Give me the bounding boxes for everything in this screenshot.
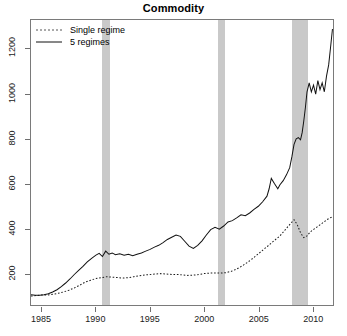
legend-key-solid-line bbox=[36, 37, 62, 47]
legend-item-single-regime: Single regime bbox=[36, 24, 125, 36]
x-tick-label: 2000 bbox=[184, 314, 224, 324]
x-tick-mark bbox=[150, 307, 151, 312]
y-tick-label: 800 bbox=[7, 128, 17, 148]
series-line-single-regime bbox=[31, 217, 332, 296]
chart-screenshot: Commodity 20040060080010001200 198519901… bbox=[0, 0, 347, 336]
x-tick-label: 1985 bbox=[21, 314, 61, 324]
y-tick-mark bbox=[25, 274, 30, 275]
legend-item-5-regimes: 5 regimes bbox=[36, 36, 125, 48]
legend: Single regime 5 regimes bbox=[36, 24, 125, 48]
y-tick-mark bbox=[25, 184, 30, 185]
y-tick-label: 1200 bbox=[7, 37, 17, 57]
series-line-5-regimes bbox=[31, 29, 332, 295]
y-tick-mark bbox=[25, 139, 30, 140]
y-tick-label: 200 bbox=[7, 263, 17, 283]
series-layer bbox=[31, 20, 333, 305]
x-tick-label: 2005 bbox=[239, 314, 279, 324]
chart-title: Commodity bbox=[0, 2, 347, 14]
x-tick-mark bbox=[95, 307, 96, 312]
y-tick-mark bbox=[25, 48, 30, 49]
y-tick-mark bbox=[25, 94, 30, 95]
x-tick-mark bbox=[41, 307, 42, 312]
x-tick-label: 1995 bbox=[130, 314, 170, 324]
y-tick-label: 1000 bbox=[7, 83, 17, 103]
x-tick-mark bbox=[204, 307, 205, 312]
plot-area bbox=[30, 19, 334, 306]
y-tick-mark bbox=[25, 229, 30, 230]
x-tick-mark bbox=[313, 307, 314, 312]
legend-key-dotted-line bbox=[36, 25, 62, 35]
y-tick-label: 400 bbox=[7, 218, 17, 238]
x-tick-mark bbox=[259, 307, 260, 312]
x-tick-label: 2010 bbox=[293, 314, 333, 324]
y-tick-label: 600 bbox=[7, 173, 17, 193]
x-tick-label: 1990 bbox=[75, 314, 115, 324]
legend-label-single-regime: Single regime bbox=[70, 25, 125, 35]
legend-label-5-regimes: 5 regimes bbox=[70, 37, 110, 47]
